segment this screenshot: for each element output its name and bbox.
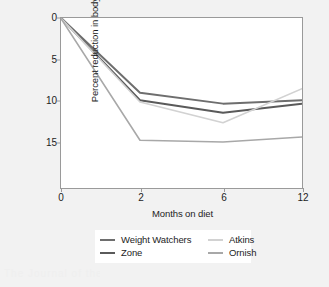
legend-item: Weight Watchers	[100, 233, 208, 246]
legend-label: Zone	[121, 248, 142, 258]
y-tick-label: 10	[31, 96, 57, 106]
chart-figure: Percent reduction in body weight Months …	[0, 0, 329, 287]
legend-label: Ornish	[229, 248, 256, 258]
legend-swatch	[100, 239, 115, 241]
legend-label: Atkins	[229, 235, 254, 245]
chart-legend: Weight WatchersAtkinsZoneOrnish	[95, 230, 251, 263]
x-tick-mark	[61, 188, 62, 192]
x-tick-mark	[303, 188, 304, 192]
x-tick-label: 2	[138, 193, 144, 203]
legend-item: Atkins	[208, 233, 256, 246]
y-tick-mark	[57, 101, 61, 102]
y-tick-mark	[57, 18, 61, 19]
x-tick-label: 6	[221, 193, 227, 203]
legend-item: Zone	[100, 246, 208, 259]
y-tick-mark	[57, 142, 61, 143]
legend-item: Ornish	[208, 246, 256, 259]
legend-label: Weight Watchers	[121, 235, 191, 245]
y-axis-title: Percent reduction in body weight	[89, 0, 103, 121]
y-tick-label: 0	[31, 13, 57, 23]
y-tick-label: 15	[31, 138, 57, 148]
x-tick-label: 12	[297, 193, 308, 203]
x-tick-mark	[141, 188, 142, 192]
scan-artifact-text: The Journal of the	[4, 268, 100, 280]
legend-swatch	[208, 252, 223, 254]
x-axis-title: Months on diet	[61, 208, 304, 219]
x-tick-mark	[224, 188, 225, 192]
x-tick-label: 0	[58, 193, 64, 203]
legend-swatch	[100, 252, 115, 254]
legend-swatch	[208, 239, 223, 241]
plot-area: Percent reduction in body weight Months …	[60, 17, 303, 189]
y-tick-mark	[57, 59, 61, 60]
y-tick-label: 5	[31, 55, 57, 65]
